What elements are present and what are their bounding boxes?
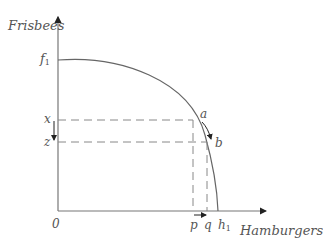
- tick-h-text: h: [218, 218, 226, 232]
- tick-p: p: [190, 219, 198, 231]
- point-a-label: a: [200, 108, 207, 120]
- tick-h-sub: 1: [226, 224, 231, 233]
- tick-x: x: [44, 113, 51, 125]
- point-b-label: b: [215, 137, 223, 149]
- tick-q: q: [204, 219, 212, 231]
- origin-label: 0: [52, 218, 60, 230]
- ppf-curve: [58, 59, 218, 211]
- tick-f1: f1: [40, 52, 50, 67]
- x-axis-label: Hamburgers: [240, 224, 323, 237]
- tick-z: z: [44, 136, 50, 148]
- tick-h1: h1: [218, 219, 231, 233]
- y-axis-label: Frisbees: [8, 19, 64, 32]
- tick-f-sub: 1: [45, 58, 50, 67]
